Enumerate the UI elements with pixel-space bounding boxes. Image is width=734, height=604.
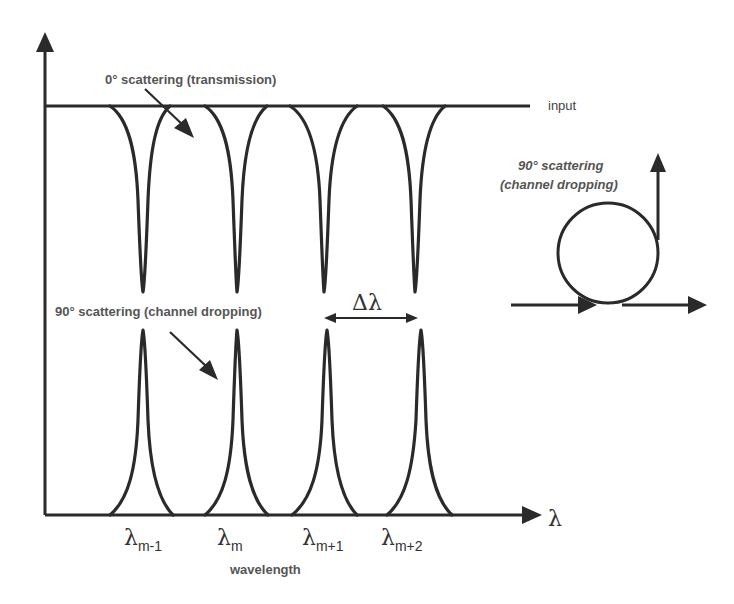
peak-3: [292, 330, 357, 515]
x-axis-symbol: λ: [548, 506, 562, 531]
dip-1: [110, 106, 170, 292]
x-axis-label: wavelength: [229, 562, 301, 577]
inset-label-line2: (channel dropping): [500, 177, 618, 192]
arrow-up-icon: [36, 32, 54, 52]
dropping-label: 90° scattering (channel dropping): [55, 304, 262, 319]
transmission-dips: [110, 106, 445, 292]
tick-lambda-m-1: λm-1: [124, 525, 162, 554]
arrow-down-right-icon: [174, 118, 194, 138]
tick-lambda-m+1: λm+1: [302, 525, 344, 554]
peak-1: [110, 330, 173, 515]
diagram-canvas: 0° scattering (transmission) input 90° s…: [0, 0, 734, 604]
dropping-peaks: [110, 330, 452, 515]
dropping-pointer: [170, 332, 207, 367]
dip-4: [383, 106, 445, 292]
tick-lambda-m+2: λm+2: [381, 525, 423, 554]
peak-4: [387, 330, 452, 515]
dip-3: [290, 106, 357, 292]
peak-2: [205, 330, 268, 515]
delta-lambda-label: Δλ: [352, 290, 382, 315]
dip-2: [205, 106, 267, 292]
transmission-label: 0° scattering (transmission): [105, 72, 276, 87]
transmission-pointer: [145, 89, 185, 127]
input-label: input: [548, 98, 577, 113]
arrow-right-icon: [522, 506, 542, 524]
tick-lambda-m: λm: [217, 525, 243, 554]
inset-label-line1: 90° scattering: [518, 158, 603, 173]
wavelength-ticks: λm-1 λm λm+1 λm+2: [124, 525, 423, 554]
